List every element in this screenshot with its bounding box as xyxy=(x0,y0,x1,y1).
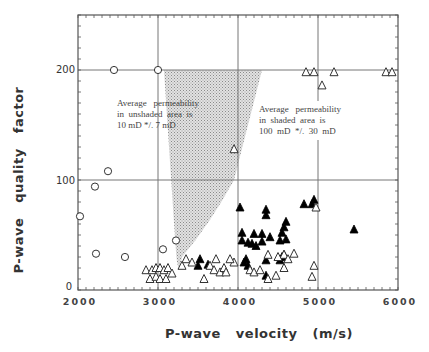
circle-marker xyxy=(92,250,99,257)
filled-triangle-marker xyxy=(250,229,258,237)
filled-triangle-marker xyxy=(266,233,274,241)
circle-marker xyxy=(110,66,117,73)
open-triangle-marker xyxy=(310,68,318,76)
circle-marker xyxy=(159,246,166,253)
x-tick-4000: 4000 xyxy=(223,296,257,307)
open-triangle-marker xyxy=(226,255,234,263)
circle-marker xyxy=(172,237,179,244)
y-tick-100: 100 xyxy=(45,175,75,186)
circle-marker xyxy=(76,213,83,220)
annotation-shaded: Average permeability in shaded area is 1… xyxy=(254,101,346,140)
annotation-unshaded: Average permeability in unshaded area is… xyxy=(117,98,199,131)
filled-triangle-marker xyxy=(238,228,246,236)
open-triangle-marker xyxy=(280,264,288,272)
filled-triangle-marker xyxy=(258,237,266,245)
filled-triangle-marker xyxy=(258,229,266,237)
x-tick-3000: 3000 xyxy=(143,296,177,307)
x-tick-5000: 5000 xyxy=(303,296,337,307)
open-triangle-marker xyxy=(302,68,310,76)
open-triangle-marker xyxy=(264,250,272,258)
open-triangle-marker xyxy=(318,81,326,89)
y-axis-label: P-wave quality factor xyxy=(11,86,26,273)
circle-marker xyxy=(104,168,111,175)
open-triangle-marker xyxy=(388,68,396,76)
open-triangle-marker xyxy=(310,261,318,269)
circle-marker xyxy=(91,183,98,190)
open-triangle-marker xyxy=(308,272,316,280)
open-triangle-marker xyxy=(290,249,298,257)
circle-marker xyxy=(154,66,161,73)
open-triangle-marker xyxy=(272,271,280,279)
circle-marker xyxy=(121,253,128,260)
filled-triangle-marker xyxy=(236,203,244,211)
x-tick-2000: 2000 xyxy=(63,296,97,307)
filled-triangle-marker xyxy=(300,200,308,208)
open-triangle-marker xyxy=(330,68,338,76)
open-triangle-marker xyxy=(212,255,220,263)
open-triangle-marker xyxy=(256,266,264,274)
y-tick-0: 0 xyxy=(42,281,72,292)
filled-triangle-marker xyxy=(238,236,246,244)
x-tick-6000: 6000 xyxy=(383,296,417,307)
filled-triangle-marker xyxy=(196,255,204,263)
filled-triangle-marker xyxy=(350,225,358,233)
open-triangle-marker xyxy=(200,275,208,283)
open-triangle-marker xyxy=(182,255,190,263)
y-tick-200: 200 xyxy=(45,64,75,75)
x-axis-label: P-wave velocity (m/s) xyxy=(165,326,353,341)
